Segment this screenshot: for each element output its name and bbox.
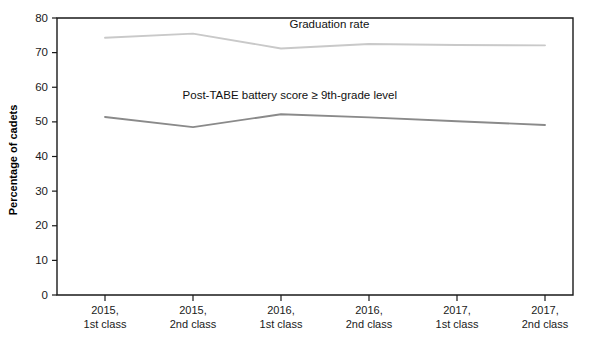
y-axis-tick-label: 10 — [35, 254, 48, 266]
chart-background — [0, 0, 590, 337]
y-axis-tick-label: 60 — [35, 81, 48, 93]
y-axis-tick-labels: 01020304050607080 — [35, 12, 48, 301]
series-label-graduation-rate: Graduation rate — [289, 18, 369, 30]
y-axis-tick-label: 40 — [35, 150, 48, 162]
y-axis-tick-label: 0 — [42, 289, 48, 301]
series-label-post-tabe-score: Post-TABE battery score ≥ 9th-grade leve… — [183, 89, 397, 101]
chart-container: 01020304050607080 2015,1st class2015,2nd… — [0, 0, 590, 337]
y-axis-tick-label: 80 — [35, 12, 48, 24]
y-axis-tick-label: 50 — [35, 115, 48, 127]
y-axis-title: Percentage of cadets — [7, 105, 19, 216]
y-axis-tick-label: 20 — [35, 219, 48, 231]
y-axis-tick-label: 70 — [35, 46, 48, 58]
line-chart: 01020304050607080 2015,1st class2015,2nd… — [0, 0, 590, 337]
y-axis-tick-label: 30 — [35, 185, 48, 197]
